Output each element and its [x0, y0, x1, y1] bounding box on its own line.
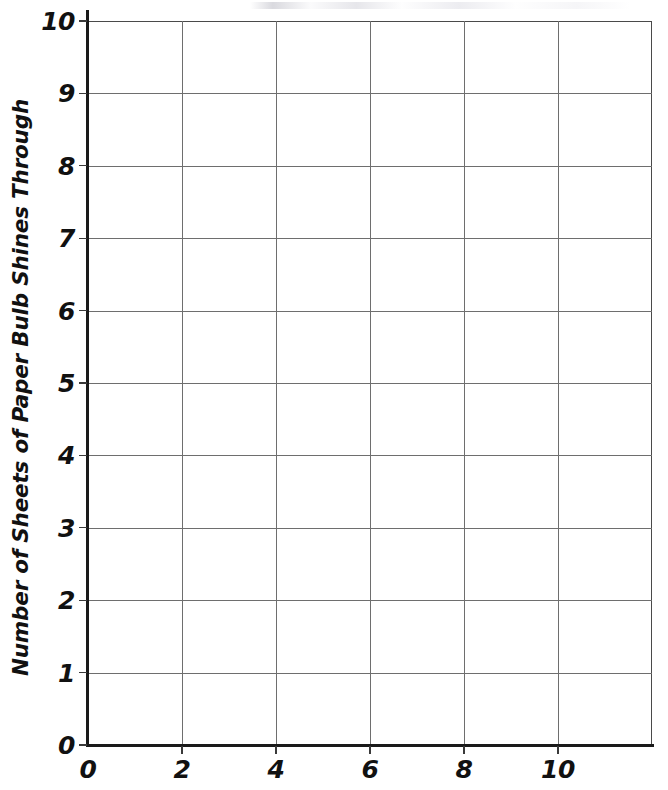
- x-axis-tick-label: 6: [362, 755, 379, 784]
- y-axis-tick-label: 0: [58, 731, 75, 760]
- y-axis-tick-label: 5: [58, 369, 75, 398]
- y-axis-tick-label: 9: [58, 79, 75, 108]
- y-axis-tick: [79, 310, 87, 311]
- y-axis-tick-label: 6: [58, 296, 75, 325]
- gridline-horizontal: [88, 238, 652, 239]
- x-axis-tick-label: 10: [541, 755, 575, 784]
- y-axis-tick-label: 7: [58, 224, 75, 253]
- y-axis-tick: [79, 455, 87, 456]
- gridline-horizontal: [88, 673, 652, 674]
- y-axis-tick-label: 10: [41, 7, 75, 36]
- x-axis-tick: [463, 746, 464, 754]
- y-axis-title: Number of Sheets of Paper Bulb Shines Th…: [8, 15, 42, 760]
- x-axis-tick: [275, 746, 276, 754]
- y-axis-tick-label: 4: [58, 441, 75, 470]
- x-axis-tick-label: 8: [456, 755, 473, 784]
- y-axis-tick-label: 8: [58, 151, 75, 180]
- y-axis-tick: [79, 672, 87, 673]
- gridline-horizontal: [88, 600, 652, 601]
- x-axis-tick-label: 0: [80, 755, 97, 784]
- y-axis-tick: [79, 20, 87, 21]
- gridline-horizontal: [88, 311, 652, 312]
- scan-artifact: [250, 2, 630, 9]
- gridline-horizontal: [88, 455, 652, 456]
- x-axis-tick: [557, 746, 558, 754]
- y-axis-tick: [79, 238, 87, 239]
- y-axis-tick-label: 3: [58, 513, 75, 542]
- x-axis-tick: [181, 746, 182, 754]
- x-axis-tick: [369, 746, 370, 754]
- y-axis-tick-label: 2: [58, 586, 75, 615]
- plot-area: [88, 21, 652, 745]
- gridline-horizontal: [88, 93, 652, 94]
- y-axis-tick-label: 1: [58, 658, 75, 687]
- x-axis-tick-label: 4: [268, 755, 285, 784]
- y-axis-tick: [79, 382, 87, 383]
- y-axis-line: [86, 10, 89, 747]
- gridline-horizontal: [88, 528, 652, 529]
- x-axis-tick-label: 2: [174, 755, 191, 784]
- y-axis-tick: [79, 744, 87, 745]
- y-axis-tick: [79, 527, 87, 528]
- y-axis-tick: [79, 165, 87, 166]
- graph-worksheet-page: 109876543210 0246810 Number of Sheets of…: [0, 0, 668, 790]
- y-axis-tick: [79, 600, 87, 601]
- gridline-horizontal: [88, 166, 652, 167]
- gridline-horizontal: [88, 383, 652, 384]
- y-axis-tick: [79, 93, 87, 94]
